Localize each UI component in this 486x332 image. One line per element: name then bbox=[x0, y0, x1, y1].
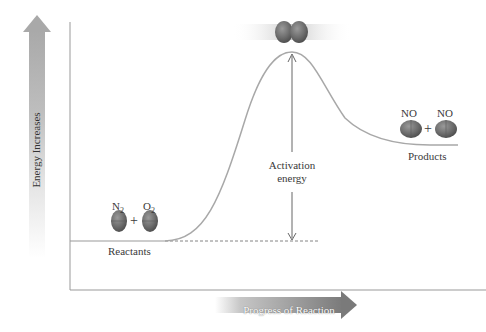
products-label: Products bbox=[408, 150, 447, 162]
o2-subscript: 2 bbox=[151, 206, 155, 215]
no-molecule-2 bbox=[435, 120, 457, 138]
o2-symbol: O bbox=[143, 200, 151, 212]
reactants-plus: + bbox=[130, 213, 138, 229]
o2-formula: O2 bbox=[143, 200, 155, 215]
activation-energy-arrow bbox=[288, 54, 296, 240]
energy-curve bbox=[165, 52, 458, 241]
n2-subscript: 2 bbox=[120, 206, 124, 215]
n2-symbol: N bbox=[112, 200, 120, 212]
y-axis-label: Energy Increases bbox=[30, 112, 42, 187]
products-plus: + bbox=[424, 121, 432, 137]
n2-formula: N2 bbox=[112, 200, 124, 215]
no-formula-2: NO bbox=[437, 107, 453, 119]
activation-energy-label: Activation energy bbox=[262, 159, 322, 185]
reactants-label: Reactants bbox=[108, 245, 151, 257]
activation-energy-line1: Activation bbox=[262, 159, 322, 172]
x-axis-label: Progress of Reaction bbox=[236, 304, 342, 316]
energy-diagram-canvas bbox=[0, 0, 486, 332]
activation-energy-line2: energy bbox=[262, 172, 322, 185]
no-molecule-1 bbox=[400, 120, 422, 138]
no-formula-1: NO bbox=[401, 107, 417, 119]
transition-state-molecules bbox=[232, 21, 352, 43]
